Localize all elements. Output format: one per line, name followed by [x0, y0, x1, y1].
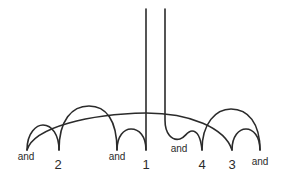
node-label-and-3: and	[171, 143, 188, 154]
node-label-2: 2	[54, 157, 61, 172]
arc-diagram: and 2 and 1 and 4 3 and	[0, 0, 286, 180]
arc-and-to-1	[117, 129, 146, 150]
node-label-4: 4	[198, 157, 205, 172]
node-label-and-1: and	[18, 151, 35, 162]
arc-3-to-and	[232, 129, 260, 150]
node-label-1: 1	[142, 157, 149, 172]
vertical-line-to-and-4	[165, 9, 202, 150]
node-label-and-2: and	[109, 151, 126, 162]
arc-2-to-and	[59, 106, 117, 150]
node-label-and-4: and	[252, 156, 269, 167]
node-label-3: 3	[228, 157, 235, 172]
